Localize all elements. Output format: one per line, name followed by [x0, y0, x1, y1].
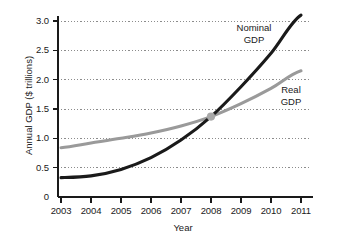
- series-label-real-line1: Real: [271, 84, 311, 96]
- x-tick-label-2011: 2011: [284, 205, 318, 216]
- x-tick-label-2006: 2006: [134, 205, 168, 216]
- intersection-marker-icon: [207, 113, 215, 121]
- x-tick-label-2003: 2003: [44, 205, 78, 216]
- x-axis-ticks: [61, 197, 301, 203]
- x-tick-label-2004: 2004: [74, 205, 108, 216]
- series-label-real-gdp: Real GDP: [271, 84, 311, 107]
- series-label-nominal-gdp: Nominal GDP: [228, 22, 280, 45]
- y-axis-ticks: [53, 21, 58, 168]
- x-tick-label-2007: 2007: [164, 205, 198, 216]
- gdp-line-chart: 3.0 2.5 2.0 1.5 1.0 0.5 0 2003 2004 2005…: [0, 0, 339, 247]
- x-tick-label-2010: 2010: [254, 205, 288, 216]
- x-tick-label-2005: 2005: [104, 205, 138, 216]
- y-axis-title: Annual GDP ($ trillions): [23, 26, 34, 186]
- series-label-nominal-line1: Nominal: [228, 22, 280, 34]
- x-tick-label-2008: 2008: [194, 205, 228, 216]
- series-label-nominal-line2: GDP: [228, 34, 280, 46]
- x-axis-title: Year: [58, 222, 308, 233]
- y-tick-label-3-0: 3.0: [23, 15, 49, 26]
- series-label-real-line2: GDP: [271, 96, 311, 108]
- x-tick-label-2009: 2009: [224, 205, 258, 216]
- y-tick-label-0: 0: [23, 191, 49, 202]
